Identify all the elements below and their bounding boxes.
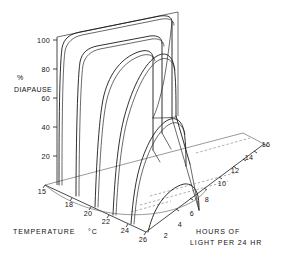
temperature-label-26: 26 xyxy=(139,235,148,244)
connector-20c-base xyxy=(153,150,160,162)
profile-curve-22c xyxy=(113,54,176,215)
hours-label-12: 12 xyxy=(231,166,240,175)
floor-dash-line-4 xyxy=(131,201,171,212)
connector-crest-base xyxy=(190,164,199,210)
hours-tick-2 xyxy=(176,209,179,211)
percent-label-80: 80 xyxy=(41,65,50,74)
hours-label-10: 10 xyxy=(218,179,227,188)
hours-axis-title: HOURS OF LIGHT PER 24 HR xyxy=(190,228,262,246)
floor-dash-line-3 xyxy=(196,138,250,153)
percent-axis-title: % DIAPAUSE xyxy=(14,74,52,93)
temperature-tick-labels: 15 18 20 22 24 26 xyxy=(38,187,148,244)
percent-label-40: 40 xyxy=(41,123,50,132)
fence-base-connectors xyxy=(153,118,199,210)
floor-dashed-grid xyxy=(131,138,250,212)
profile-curve-18c xyxy=(76,36,164,196)
temperature-label-22: 22 xyxy=(102,217,111,226)
temperature-label-18: 18 xyxy=(65,200,74,209)
temperature-label-15: 15 xyxy=(38,187,47,196)
hours-label-2: 2 xyxy=(164,231,168,240)
profile-line-20c-top xyxy=(95,51,153,207)
percent-axis-title-line2: DIAPAUSE xyxy=(14,86,52,93)
hours-tick-6 xyxy=(204,188,207,190)
temperature-label-20: 20 xyxy=(84,209,93,218)
hours-label-6: 6 xyxy=(190,209,194,218)
ridge-line-crest xyxy=(153,117,176,118)
temperature-axis-unit-text: °C xyxy=(88,228,98,235)
hours-tick-14 xyxy=(254,151,257,153)
hours-label-16: 16 xyxy=(262,140,271,149)
diapause-surface-figure: 100 80 60 40 20 % DIAPAUSE 15 18 20 22 2… xyxy=(0,0,282,265)
temperature-label-24: 24 xyxy=(121,226,130,235)
hours-label-4: 4 xyxy=(178,220,182,229)
temperature-axis-title: TEMPERATURE °C xyxy=(13,228,98,235)
connector-24c-base xyxy=(186,166,199,210)
profile-line-15c-front xyxy=(62,19,174,185)
chart-canvas: 100 80 60 40 20 % DIAPAUSE 15 18 20 22 2… xyxy=(0,0,282,265)
surface-ridge-lines xyxy=(45,22,206,215)
percent-axis-ticks xyxy=(53,40,57,156)
percent-label-20: 20 xyxy=(41,152,50,161)
connector-18c-base xyxy=(162,133,171,149)
hours-label-14: 14 xyxy=(245,153,254,162)
hours-axis-title-line1: HOURS OF xyxy=(196,228,240,235)
floor-back-edge xyxy=(45,133,243,185)
temperature-axis-title-text: TEMPERATURE xyxy=(13,228,75,235)
floor-dash-line-2 xyxy=(140,181,228,205)
hours-tick-labels: 2 4 6 8 10 12 14 16 xyxy=(164,140,270,240)
floor-plane xyxy=(45,133,264,232)
percent-label-100: 100 xyxy=(37,36,50,45)
percent-label-60: 60 xyxy=(41,94,50,103)
profile-line-22c-arch xyxy=(113,54,176,215)
profile-line-20c-front xyxy=(98,55,155,207)
hours-label-8: 8 xyxy=(205,195,209,204)
percent-axis-title-line1: % xyxy=(17,74,24,81)
profile-line-22c-arch-back xyxy=(116,58,175,215)
percent-tick-labels: 100 80 60 40 20 xyxy=(37,36,50,161)
hours-axis-title-line2: LIGHT PER 24 HR xyxy=(190,239,262,246)
